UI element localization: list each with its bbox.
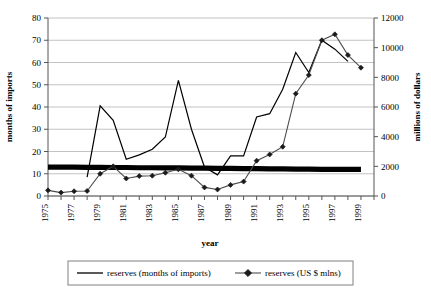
x-axis-tick-label: 1981	[118, 204, 128, 222]
chart-legend: reserves (months of imports) reserves (U…	[68, 261, 353, 285]
left-axis-tick-label: 70	[32, 35, 42, 45]
x-axis-tick-label: 1993	[275, 204, 285, 223]
chart-background	[0, 0, 431, 298]
left-axis-tick-label: 80	[32, 13, 42, 23]
right-axis-tick-label: 0	[381, 191, 386, 201]
right-axis-tick-label: 12000	[381, 13, 404, 23]
x-axis-tick-label: 1979	[92, 204, 102, 223]
left-axis-tick-label: 30	[32, 124, 42, 134]
right-axis-tick-label: 2000	[381, 162, 400, 172]
x-axis-tick-label: 1983	[144, 204, 154, 223]
right-axis-tick-label: 8000	[381, 73, 400, 83]
right-axis-tick-label: 4000	[381, 132, 400, 142]
left-axis-tick-label: 10	[32, 169, 42, 179]
x-axis-tick-label: 1989	[223, 204, 233, 223]
legend-label-usd-mlns: reserves (US $ mlns)	[265, 268, 341, 278]
y-axis-title: months of imports	[4, 71, 14, 142]
reserves-line-chart: 01020304050607080 0200040006000800010000…	[0, 0, 431, 298]
left-axis-tick-label: 50	[32, 80, 42, 90]
chart-container: 01020304050607080 0200040006000800010000…	[0, 0, 431, 298]
x-axis-title: year	[202, 238, 219, 248]
left-axis-tick-label: 40	[32, 102, 42, 112]
right-axis-tick-label: 6000	[381, 102, 400, 112]
x-axis-tick-label: 1977	[66, 204, 76, 223]
series-reserves-months-imports-thick	[48, 167, 361, 169]
left-axis-tick-label: 20	[32, 147, 42, 157]
x-axis-tick-label: 1995	[301, 204, 311, 223]
x-axis-tick-label: 1975	[40, 204, 50, 223]
x-axis-tick-label: 1991	[249, 204, 259, 222]
left-axis-tick-label: 60	[32, 58, 42, 68]
left-axis-tick-label: 0	[37, 191, 42, 201]
x-axis-tick-label: 1999	[353, 204, 363, 223]
right-axis-tick-label: 10000	[381, 43, 404, 53]
legend-label-months-of-imports: reserves (months of imports)	[107, 268, 211, 278]
x-axis-tick-label: 1997	[327, 204, 337, 223]
x-axis-tick-label: 1987	[196, 204, 206, 223]
left-axis-tick-labels: 01020304050607080	[32, 13, 42, 201]
y2-axis-title: millions of dollars	[412, 72, 422, 142]
x-axis-tick-label: 1985	[170, 204, 180, 223]
series-line-reserves-threshold	[48, 167, 361, 169]
